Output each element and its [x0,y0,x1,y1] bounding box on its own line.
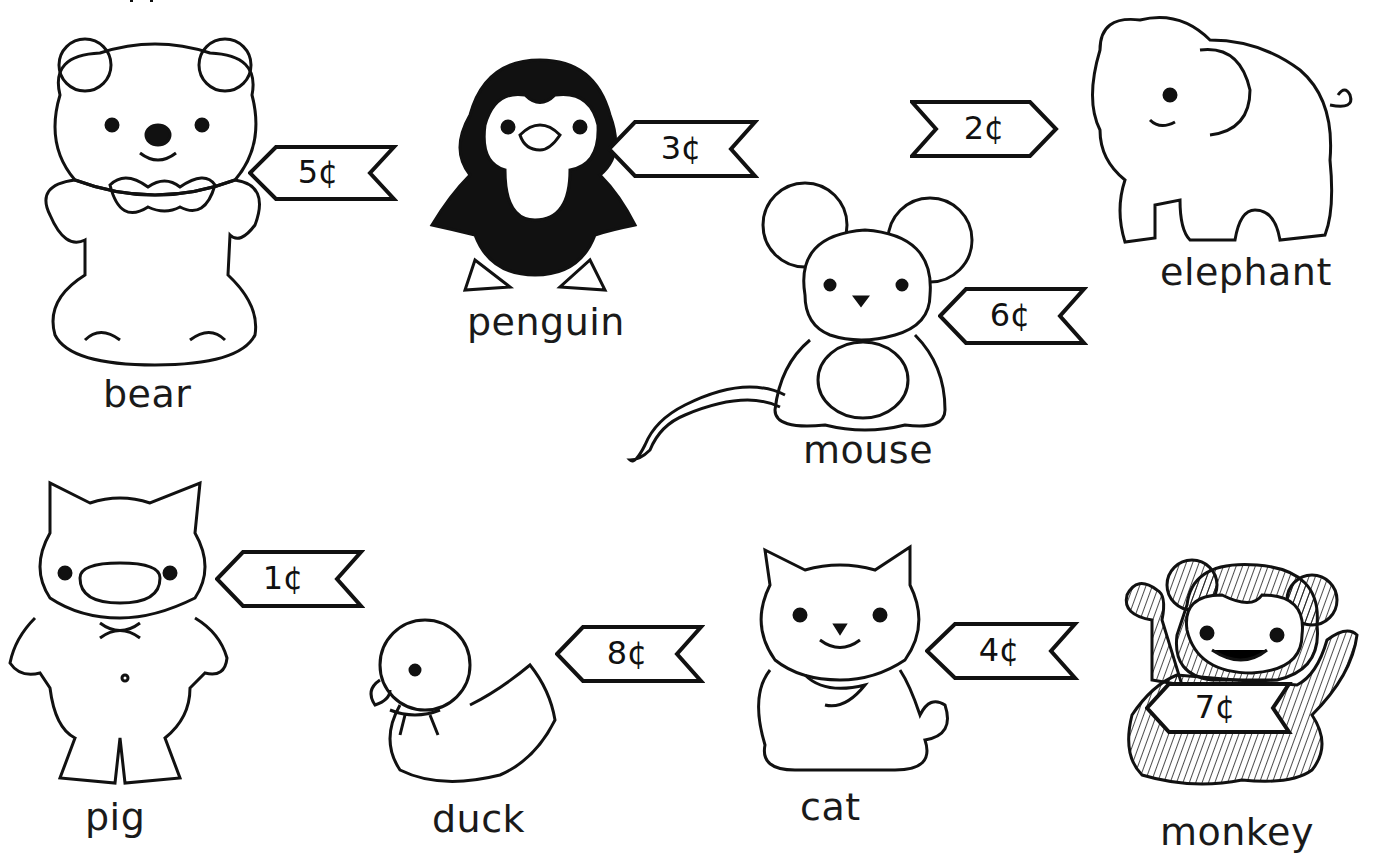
toy-label-bear: bear [103,372,191,416]
price-tag-mouse: 6¢ [938,287,1088,345]
price-tag-pig: 1¢ [215,550,365,608]
price-tag-bear: 5¢ [248,145,398,201]
price-tag-penguin: 3¢ [607,120,759,178]
toy-label-duck: duck [432,797,525,841]
price-penguin: 3¢ [641,129,721,167]
toy-pig [5,478,235,788]
toy-elephant [1060,10,1370,250]
toy-bear [30,35,270,375]
bear-drawing [30,35,270,375]
price-bear: 5¢ [278,153,358,191]
price-monkey: 7¢ [1175,688,1255,726]
toy-duck [360,610,560,790]
price-pig: 1¢ [243,559,323,597]
price-elephant: 2¢ [944,109,1024,147]
price-cat: 4¢ [959,631,1039,669]
toy-label-penguin: penguin [467,300,625,344]
price-mouse: 6¢ [970,296,1050,334]
toy-label-monkey: monkey [1160,810,1314,854]
toy-label-mouse: mouse [803,428,933,472]
price-tag-cat: 4¢ [925,622,1081,680]
toy-label-elephant: elephant [1160,250,1332,294]
toy-label-cat: cat [800,785,861,829]
price-tag-duck: 8¢ [555,625,705,683]
duck-drawing [360,610,560,790]
cropped-header-text [120,0,170,4]
price-duck: 8¢ [587,634,667,672]
elephant-drawing [1060,10,1370,250]
pig-drawing [5,478,235,788]
price-tag-elephant: 2¢ [910,100,1060,158]
toy-label-pig: pig [85,795,145,839]
price-tag-monkey: 7¢ [1145,682,1293,734]
